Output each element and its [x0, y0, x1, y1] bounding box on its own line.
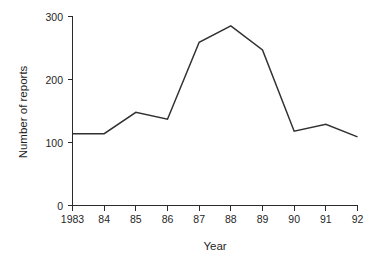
x-axis-ticks — [73, 206, 358, 211]
y-tick-label-100: 100 — [45, 137, 63, 149]
x-tick-label-85: 85 — [130, 213, 142, 225]
x-axis-title: Year — [203, 240, 226, 252]
x-tick-label-92: 92 — [352, 213, 364, 225]
x-tick-label-88: 88 — [225, 213, 237, 225]
x-tick-label-87: 87 — [193, 213, 205, 225]
line-chart: 300 200 100 0 1983 84 85 86 87 88 89 90 … — [0, 0, 374, 261]
x-tick-label-84: 84 — [98, 213, 110, 225]
x-tick-label-89: 89 — [257, 213, 269, 225]
x-tick-label-91: 91 — [320, 213, 332, 225]
y-tick-label-200: 200 — [45, 74, 63, 86]
x-tick-label-1983: 1983 — [61, 213, 85, 225]
data-series-line — [73, 26, 358, 137]
x-tick-label-90: 90 — [288, 213, 300, 225]
x-tick-label-86: 86 — [162, 213, 174, 225]
y-tick-label-0: 0 — [57, 200, 63, 212]
y-axis-ticks — [68, 17, 73, 206]
y-axis-title: Number of reports — [17, 65, 29, 158]
chart-canvas: 300 200 100 0 1983 84 85 86 87 88 89 90 … — [0, 0, 374, 261]
y-tick-label-300: 300 — [45, 11, 63, 23]
